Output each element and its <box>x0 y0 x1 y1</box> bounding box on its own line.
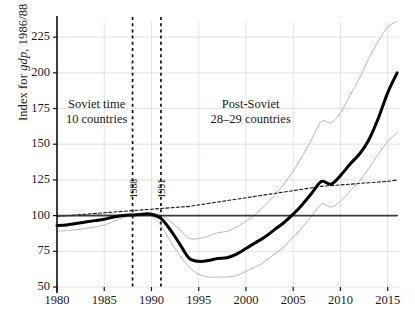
x-axis-tick-label: 1980 <box>37 293 77 308</box>
chart-figure: Index for gdp, 1986/88 = 100 50751001251… <box>0 0 415 310</box>
y-axis-tick-label: 200 <box>8 65 50 80</box>
annotation-post-soviet-line1: Post-Soviet <box>191 97 311 112</box>
annotation-post-soviet: Post-Soviet 28–29 countries <box>191 97 311 127</box>
y-axis-tick-label: 225 <box>8 29 50 44</box>
y-axis-tick-label: 50 <box>8 279 50 294</box>
x-axis-tick-label: 2000 <box>226 293 266 308</box>
x-axis-tick-label: 1985 <box>84 293 124 308</box>
x-axis-tick-label: 2015 <box>368 293 408 308</box>
plot-background <box>57 22 399 287</box>
x-axis-tick-label: 2005 <box>273 293 313 308</box>
y-axis-tick-label: 75 <box>8 243 50 258</box>
annotation-soviet-time-line1: Soviet time <box>37 97 157 112</box>
x-axis-tick-label: 2010 <box>320 293 360 308</box>
annotation-soviet-time-line2: 10 countries <box>37 112 157 127</box>
y-axis-tick-label: 125 <box>8 172 50 187</box>
vertical-marker-label-1988: 1988 <box>129 179 139 198</box>
vertical-marker-label-1991: 1991 <box>157 179 167 198</box>
x-axis-tick-label: 1995 <box>179 293 219 308</box>
annotation-soviet-time: Soviet time 10 countries <box>37 97 157 127</box>
y-axis-tick-label: 150 <box>8 136 50 151</box>
y-axis-tick-label: 100 <box>8 208 50 223</box>
chart-plot-area <box>0 0 415 310</box>
x-axis-tick-label: 1990 <box>131 293 171 308</box>
annotation-post-soviet-line2: 28–29 countries <box>191 112 311 127</box>
